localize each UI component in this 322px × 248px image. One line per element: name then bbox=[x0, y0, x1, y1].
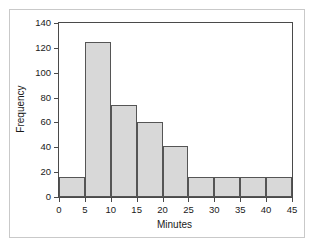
y-axis-tick-label: 140 bbox=[35, 18, 51, 28]
x-axis-tick-label: 25 bbox=[183, 205, 194, 215]
y-axis-tick-label: 60 bbox=[40, 118, 51, 128]
histogram-bar bbox=[111, 105, 137, 197]
x-axis-tick-mark bbox=[59, 197, 60, 202]
y-axis-tick-label: 0 bbox=[46, 192, 51, 202]
x-axis-tick-label: 15 bbox=[131, 205, 142, 215]
y-axis-tick-label: 80 bbox=[40, 93, 51, 103]
x-axis-tick-label: 40 bbox=[261, 205, 272, 215]
y-axis-tick-mark bbox=[54, 48, 59, 49]
y-axis-tick-label: 120 bbox=[35, 43, 51, 53]
y-axis-tick-label: 20 bbox=[40, 167, 51, 177]
x-axis-tick-label: 5 bbox=[82, 205, 87, 215]
y-axis-tick-mark bbox=[54, 23, 59, 24]
x-axis-tick-label: 20 bbox=[157, 205, 168, 215]
x-axis-tick-mark bbox=[240, 197, 241, 202]
y-axis-tick-label: 40 bbox=[40, 143, 51, 153]
x-axis-label-text: Minutes bbox=[157, 219, 192, 230]
histogram-bar bbox=[59, 177, 85, 197]
x-axis-tick-label: 10 bbox=[105, 205, 116, 215]
histogram-bar bbox=[188, 177, 214, 197]
histogram-bar bbox=[266, 177, 292, 197]
y-axis-tick-label: 100 bbox=[35, 68, 51, 78]
y-axis-label: Frequency bbox=[14, 22, 28, 196]
x-axis-tick-label: 30 bbox=[209, 205, 220, 215]
histogram-bar bbox=[137, 122, 163, 197]
y-axis-tick-mark bbox=[54, 147, 59, 148]
y-axis-tick-mark bbox=[54, 73, 59, 74]
figure: Frequency 020406080100120140 05101520253… bbox=[0, 0, 322, 248]
x-axis-tick-mark bbox=[111, 197, 112, 202]
x-axis-tick-mark bbox=[214, 197, 215, 202]
x-axis-label: Minutes bbox=[58, 220, 291, 230]
y-axis-label-text: Frequency bbox=[16, 85, 26, 132]
histogram-bar bbox=[240, 177, 266, 197]
x-axis-tick-mark bbox=[163, 197, 164, 202]
x-axis-tick-mark bbox=[85, 197, 86, 202]
histogram-bar bbox=[214, 177, 240, 197]
histogram-bar bbox=[163, 146, 189, 197]
x-axis-tick-label: 0 bbox=[56, 205, 61, 215]
x-axis-tick-mark bbox=[188, 197, 189, 202]
y-axis-tick-mark bbox=[54, 122, 59, 123]
y-axis-tick-mark bbox=[54, 172, 59, 173]
plot-area: 020406080100120140 051015202530354045 bbox=[58, 22, 293, 198]
x-axis-tick-mark bbox=[266, 197, 267, 202]
y-axis-tick-mark bbox=[54, 98, 59, 99]
histogram-bar bbox=[85, 42, 111, 197]
x-axis-tick-mark bbox=[137, 197, 138, 202]
x-axis-tick-mark bbox=[292, 197, 293, 202]
x-axis-tick-label: 35 bbox=[235, 205, 246, 215]
x-axis-tick-label: 45 bbox=[287, 205, 298, 215]
